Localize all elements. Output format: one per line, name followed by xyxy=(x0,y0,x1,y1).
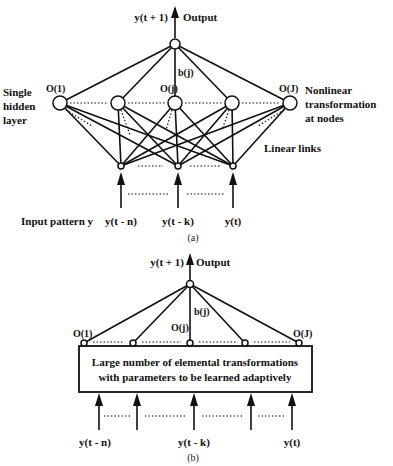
output-variable-label: y(t + 1) xyxy=(134,11,168,24)
right-label-line-2: transformation xyxy=(305,98,377,110)
hidden-node-j xyxy=(168,96,182,110)
hidden-node-2 xyxy=(111,96,125,110)
input-arrow-icon xyxy=(133,393,141,406)
input-arrow-icon xyxy=(288,393,296,406)
node-label-last: O(J) xyxy=(293,328,312,340)
caption-b: (b) xyxy=(187,452,199,464)
left-label-line-2: hidden xyxy=(3,100,35,112)
input-node-3 xyxy=(230,163,236,169)
transformation-box xyxy=(79,346,312,392)
input-arrow-icon xyxy=(95,393,103,406)
hidden-node-4 xyxy=(242,340,248,346)
input-label-k: y(t - k) xyxy=(178,436,210,449)
neural-network-diagram: y(t + 1) Output b(j) xyxy=(0,0,393,466)
left-label-line-3: layer xyxy=(3,114,27,126)
input-arrow-icon xyxy=(174,172,182,185)
weight-label: b(j) xyxy=(194,306,210,318)
output-node xyxy=(187,281,194,288)
node-label-first: O(1) xyxy=(46,83,65,95)
right-label-line-3: at nodes xyxy=(305,112,345,124)
node-label-middle: O(j) xyxy=(160,83,178,95)
node-label-last: O(J) xyxy=(279,83,298,95)
input-arrow-icon xyxy=(229,172,237,185)
output-label: Output xyxy=(196,256,231,268)
linear-links-label: Linear links xyxy=(264,142,322,154)
input-arrow-icon xyxy=(190,393,198,406)
input-label-k: y(t - k) xyxy=(162,215,194,228)
node-label-middle: O(j) xyxy=(171,322,189,334)
linear-links xyxy=(60,103,290,166)
output-node xyxy=(170,39,180,49)
node-label-first: O(1) xyxy=(73,328,92,340)
input-arrow-icon xyxy=(117,172,125,185)
weight-label: b(j) xyxy=(178,67,194,79)
input-arrow-icon xyxy=(247,393,255,406)
box-text-line-2: with parameters to be learned adaptively xyxy=(99,371,292,383)
panel-a: y(t + 1) Output b(j) xyxy=(3,6,377,244)
left-label-line-1: Single xyxy=(3,86,32,98)
hidden-node-4 xyxy=(225,96,239,110)
output-label: Output xyxy=(183,11,218,23)
hidden-node-1 xyxy=(53,96,67,110)
input-node-2 xyxy=(175,163,181,169)
hidden-node-2 xyxy=(130,340,136,346)
caption-a: (a) xyxy=(187,232,198,244)
hidden-node-1 xyxy=(81,340,87,346)
hidden-node-j xyxy=(187,340,193,346)
output-variable-label: y(t + 1) xyxy=(150,256,184,269)
input-label-t: y(t) xyxy=(225,215,242,228)
box-text-line-1: Large number of elemental transformation… xyxy=(92,356,299,368)
input-pattern-label: Input pattern y xyxy=(21,215,94,227)
input-label-n: y(t - n) xyxy=(79,436,111,449)
output-arrow-icon xyxy=(186,253,194,265)
arrowhead-icon xyxy=(171,6,179,18)
panel-b: y(t + 1) Output b(j) O(1) O(j) O(J) Larg… xyxy=(73,253,312,464)
input-node-1 xyxy=(118,163,124,169)
right-label-line-1: Nonlinear xyxy=(305,84,352,96)
hidden-node-J xyxy=(283,96,297,110)
hidden-node-J xyxy=(296,340,302,346)
input-label-n: y(t - n) xyxy=(105,215,137,228)
input-label-t: y(t) xyxy=(284,436,301,449)
